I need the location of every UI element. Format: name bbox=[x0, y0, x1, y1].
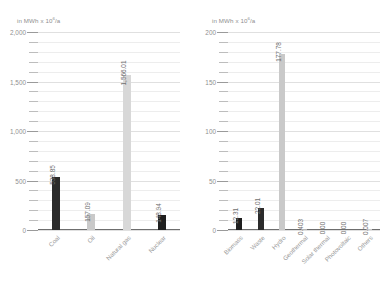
plot-area-left: 05001,0001,5002,000538.85Coal157.09Oil1,… bbox=[38, 32, 180, 230]
bar[interactable] bbox=[279, 54, 285, 230]
y-axis-tick-label-right: 150 bbox=[205, 78, 216, 85]
x-axis-category-label: Hydro bbox=[271, 234, 288, 251]
bar-value-label: 0.00 bbox=[319, 222, 326, 234]
x-axis-category-label: Waste bbox=[248, 234, 265, 251]
y-axis-tick-label-left: 1,000 bbox=[10, 128, 26, 135]
y-axis-tick-left bbox=[27, 32, 38, 33]
y-axis-tick-right bbox=[217, 82, 228, 83]
y-axis-tick-right bbox=[217, 32, 228, 33]
bar-group: 22.01Waste bbox=[250, 32, 272, 230]
plot-area-right: 05010015020012.31Biomass22.01Waste177.78… bbox=[228, 32, 380, 230]
y-axis-tick-left bbox=[27, 230, 38, 231]
y-axis-tick-left bbox=[29, 91, 38, 92]
bar-value-label: 12.31 bbox=[232, 208, 239, 224]
x-axis-category-label: Oil bbox=[86, 234, 96, 244]
y-axis-tick-label-right: 100 bbox=[205, 128, 216, 135]
x-axis-category-label: Coal bbox=[47, 234, 61, 248]
y-axis-tick-right bbox=[217, 181, 228, 182]
gridline-right bbox=[228, 230, 380, 231]
y-axis-tick-right bbox=[219, 141, 228, 142]
y-axis-tick-right bbox=[219, 190, 228, 191]
y-axis-tick-left bbox=[27, 82, 38, 83]
y-axis-tick-label-right: 200 bbox=[205, 29, 216, 36]
y-axis-tick-left bbox=[29, 151, 38, 152]
bar-group: 177.78Hydro bbox=[271, 32, 293, 230]
bar[interactable] bbox=[123, 75, 131, 230]
y-axis-tick-right bbox=[219, 151, 228, 152]
bar-group: 0.403Geothermal bbox=[293, 32, 315, 230]
y-axis-tick-label-left: 2,000 bbox=[10, 29, 26, 36]
bar-value-label: 538.85 bbox=[49, 165, 56, 185]
bar-group: 0.00Photovoltaic bbox=[337, 32, 359, 230]
y-axis-tick-left bbox=[29, 52, 38, 53]
x-axis-category-label: Biomass bbox=[222, 234, 244, 256]
y-axis-tick-right bbox=[219, 111, 228, 112]
bar-value-label: 1,566.01 bbox=[120, 61, 127, 86]
bar-value-label: 0.007 bbox=[362, 219, 369, 235]
y-axis-tick-right bbox=[219, 101, 228, 102]
y-axis-tick-right bbox=[219, 121, 228, 122]
x-axis-category-label: Nuclear bbox=[147, 234, 167, 254]
bar-group: 0.00Solar thermal bbox=[315, 32, 337, 230]
y-axis-tick-left bbox=[29, 210, 38, 211]
bar-value-label: 157.09 bbox=[84, 203, 91, 223]
bar-group: 1,566.01Natural gas bbox=[109, 32, 145, 230]
y-axis-tick-left bbox=[29, 171, 38, 172]
y-axis-tick-left bbox=[29, 161, 38, 162]
y-axis-tick-label-right: 0 bbox=[212, 227, 216, 234]
y-axis-unit-label-left: in MWh x 106/a bbox=[17, 16, 60, 24]
bar-group: 538.85Coal bbox=[38, 32, 74, 230]
y-axis-tick-right bbox=[219, 52, 228, 53]
y-axis-tick-right bbox=[217, 131, 228, 132]
y-axis-tick-left bbox=[27, 131, 38, 132]
y-axis-tick-right bbox=[219, 220, 228, 221]
chart-page: in MWh x 106/a 05001,0001,5002,000538.85… bbox=[0, 0, 390, 297]
y-axis-tick-left bbox=[29, 190, 38, 191]
x-axis-category-label: Natural gas bbox=[104, 234, 131, 261]
y-axis-tick-left bbox=[29, 101, 38, 102]
bar-value-label: 0.403 bbox=[297, 219, 304, 235]
y-axis-unit-base-right: in MWh x 10 bbox=[212, 17, 248, 24]
y-axis-tick-right bbox=[219, 161, 228, 162]
y-axis-unit-suffix-left: /a bbox=[55, 17, 60, 24]
y-axis-tick-left bbox=[29, 111, 38, 112]
chart-panel-right: in MWh x 106/a 05010015020012.31Biomass2… bbox=[195, 0, 390, 297]
y-axis-tick-left bbox=[29, 72, 38, 73]
y-axis-tick-left bbox=[29, 220, 38, 221]
y-axis-tick-right bbox=[217, 230, 228, 231]
y-axis-unit-base-left: in MWh x 10 bbox=[17, 17, 53, 24]
y-axis-tick-left bbox=[29, 141, 38, 142]
bar-group: 12.31Biomass bbox=[228, 32, 250, 230]
chart-panel-left: in MWh x 106/a 05001,0001,5002,000538.85… bbox=[0, 0, 195, 297]
y-axis-tick-label-left: 1,500 bbox=[10, 78, 26, 85]
bar-value-label: 177.78 bbox=[275, 42, 282, 62]
y-axis-tick-left bbox=[29, 42, 38, 43]
y-axis-unit-suffix-right: /a bbox=[250, 17, 255, 24]
y-axis-tick-right bbox=[219, 62, 228, 63]
bar-group: 157.09Oil bbox=[74, 32, 110, 230]
y-axis-tick-right bbox=[219, 42, 228, 43]
y-axis-unit-label-right: in MWh x 106/a bbox=[212, 16, 255, 24]
y-axis-tick-label-right: 50 bbox=[209, 177, 216, 184]
x-axis-category-label: Others bbox=[356, 234, 374, 252]
y-axis-tick-right bbox=[219, 171, 228, 172]
bar-value-label: 0.00 bbox=[340, 222, 347, 234]
y-axis-tick-left bbox=[29, 200, 38, 201]
bar-value-label: 22.01 bbox=[254, 198, 261, 214]
gridline-left bbox=[38, 230, 180, 231]
y-axis-tick-left bbox=[29, 62, 38, 63]
y-axis-tick-right bbox=[219, 210, 228, 211]
y-axis-tick-right bbox=[219, 72, 228, 73]
bar-group: 0.007Others bbox=[358, 32, 380, 230]
bar-value-label: 148.94 bbox=[155, 203, 162, 223]
y-axis-tick-right bbox=[219, 200, 228, 201]
y-axis-tick-label-left: 500 bbox=[15, 177, 26, 184]
bar-group: 148.94Nuclear bbox=[145, 32, 181, 230]
y-axis-tick-label-left: 0 bbox=[22, 227, 26, 234]
y-axis-tick-left bbox=[29, 121, 38, 122]
y-axis-tick-left bbox=[27, 181, 38, 182]
y-axis-tick-right bbox=[219, 91, 228, 92]
